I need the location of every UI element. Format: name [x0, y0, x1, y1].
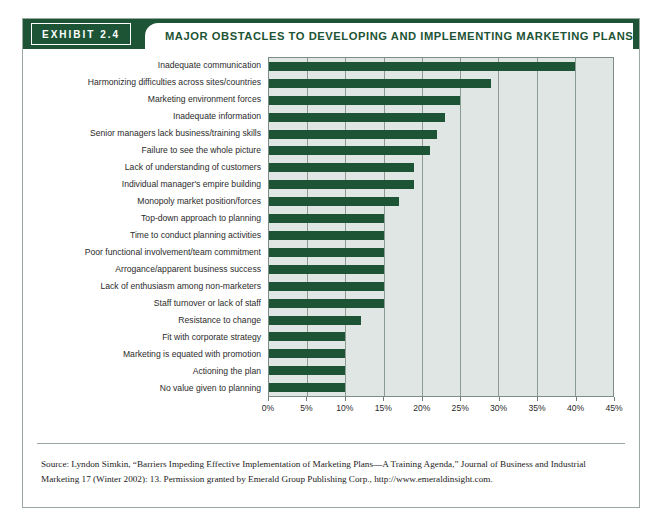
category-label: Failure to see the whole picture — [27, 142, 265, 159]
axis-tick-label: 20% — [413, 403, 430, 413]
bar — [269, 349, 345, 358]
bar — [269, 231, 384, 240]
bar-slot — [269, 345, 613, 362]
bar-slot — [269, 159, 613, 176]
bar-slot — [269, 126, 613, 143]
axis-tick-label: 10% — [336, 403, 353, 413]
axis-tick-mark — [499, 397, 500, 401]
axis-tick-label: 25% — [452, 403, 469, 413]
bar-slot — [269, 176, 613, 193]
source-note: Source: Lyndon Simkin, “Barriers Impedin… — [41, 457, 621, 487]
category-label: Harmonizing difficulties across sites/co… — [27, 74, 265, 91]
bar-slot — [269, 379, 613, 396]
axis-tick-mark — [268, 397, 269, 401]
bar-slot — [269, 92, 613, 109]
bar-slot — [269, 295, 613, 312]
bar — [269, 366, 345, 375]
plot-area — [268, 57, 614, 397]
axis-tick-label: 40% — [567, 403, 584, 413]
source-divider — [37, 443, 625, 444]
bar — [269, 316, 361, 325]
bar-slot — [269, 227, 613, 244]
bar — [269, 79, 491, 88]
category-label: No value given to planning — [27, 380, 265, 397]
bar — [269, 299, 384, 308]
bar-slot — [269, 261, 613, 278]
category-label: Inadequate information — [27, 108, 265, 125]
axis-tick-mark — [460, 397, 461, 401]
axis-tick-label: 5% — [300, 403, 312, 413]
category-label: Senior managers lack business/training s… — [27, 125, 265, 142]
bar — [269, 383, 345, 392]
category-label: Lack of enthusiasm among non-marketers — [27, 278, 265, 295]
bar — [269, 332, 345, 341]
bar — [269, 265, 384, 274]
bar — [269, 248, 384, 257]
exhibit-card: EXHIBIT 2.4 MAJOR OBSTACLES TO DEVELOPIN… — [22, 18, 640, 508]
bar-slot — [269, 312, 613, 329]
axis-tick-mark — [576, 397, 577, 401]
axis-tick-mark — [537, 397, 538, 401]
bar-slot — [269, 329, 613, 346]
axis-tick-mark — [614, 397, 615, 401]
axis-tick-label: 15% — [375, 403, 392, 413]
bar — [269, 96, 460, 105]
exhibit-header-band: EXHIBIT 2.4 MAJOR OBSTACLES TO DEVELOPIN… — [23, 19, 639, 49]
bar-slot — [269, 278, 613, 295]
category-label: Arrogance/apparent business success — [27, 261, 265, 278]
bar-slot — [269, 193, 613, 210]
chart-region: Inadequate communicationHarmonizing diff… — [23, 49, 639, 439]
category-label: Individual manager's empire building — [27, 176, 265, 193]
axis-tick-label: 30% — [490, 403, 507, 413]
category-label: Marketing is equated with promotion — [27, 346, 265, 363]
category-label: Staff turnover or lack of staff — [27, 295, 265, 312]
exhibit-title-container: MAJOR OBSTACLES TO DEVELOPING AND IMPLEM… — [145, 23, 633, 49]
bar — [269, 214, 384, 223]
bar — [269, 113, 445, 122]
axis-tick-label: 45% — [605, 403, 622, 413]
category-label: Time to conduct planning activities — [27, 227, 265, 244]
category-label: Marketing environment forces — [27, 91, 265, 108]
axis-tick-mark — [383, 397, 384, 401]
axis-tick-label: 35% — [529, 403, 546, 413]
bars-layer — [269, 58, 613, 396]
category-label: Resistance to change — [27, 312, 265, 329]
exhibit-title: MAJOR OBSTACLES TO DEVELOPING AND IMPLEM… — [145, 30, 633, 42]
axis-tick-mark — [306, 397, 307, 401]
category-label: Fit with corporate strategy — [27, 329, 265, 346]
category-label: Inadequate communication — [27, 57, 265, 74]
category-label: Poor functional involvement/team commitm… — [27, 244, 265, 261]
bar-slot — [269, 362, 613, 379]
value-axis: 0%5%10%15%20%25%30%35%40%45% — [268, 397, 614, 423]
bar-slot — [269, 58, 613, 75]
bar-slot — [269, 143, 613, 160]
bar-slot — [269, 244, 613, 261]
axis-tick-mark — [422, 397, 423, 401]
bar — [269, 62, 575, 71]
category-label: Monopoly market position/forces — [27, 193, 265, 210]
bar — [269, 163, 414, 172]
bar — [269, 130, 437, 139]
bar-slot — [269, 210, 613, 227]
bar — [269, 146, 430, 155]
bar-slot — [269, 75, 613, 92]
category-axis-labels: Inadequate communicationHarmonizing diff… — [27, 57, 265, 397]
bar — [269, 197, 399, 206]
axis-tick-mark — [345, 397, 346, 401]
exhibit-number-tab: EXHIBIT 2.4 — [31, 23, 131, 45]
category-label: Actioning the plan — [27, 363, 265, 380]
category-label: Top-down approach to planning — [27, 210, 265, 227]
category-label: Lack of understanding of customers — [27, 159, 265, 176]
bar — [269, 180, 414, 189]
bar-slot — [269, 109, 613, 126]
axis-tick-label: 0% — [262, 403, 274, 413]
bar — [269, 282, 384, 291]
